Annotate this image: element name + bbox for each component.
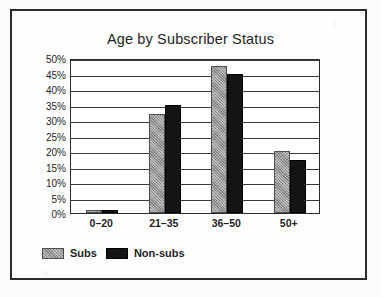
bar-subs bbox=[86, 210, 102, 213]
x-axis-tick-label: 50+ bbox=[280, 217, 298, 229]
legend-swatch-icon bbox=[106, 248, 128, 259]
y-axis-tick-label: 20% bbox=[32, 147, 66, 158]
bar-subs bbox=[149, 114, 165, 213]
legend-label: Subs bbox=[70, 247, 97, 259]
y-axis-tick-label: 25% bbox=[32, 131, 66, 142]
y-axis-tick-label: 35% bbox=[32, 100, 66, 111]
plot-area bbox=[70, 59, 320, 214]
legend-item: Subs bbox=[42, 247, 97, 259]
x-axis-tick-labels: 0–2021–3536–5050+ bbox=[70, 217, 320, 233]
bar-series-container bbox=[71, 60, 319, 213]
bar-nonsubs bbox=[227, 74, 243, 214]
y-axis-tick-label: 0% bbox=[32, 209, 66, 220]
y-axis-tick-label: 50% bbox=[32, 54, 66, 65]
bar-subs bbox=[211, 66, 227, 213]
y-axis-tick-label: 5% bbox=[32, 193, 66, 204]
x-axis-tick-label: 21–35 bbox=[149, 217, 178, 229]
bar-nonsubs bbox=[165, 105, 181, 214]
x-axis-tick-label: 0–20 bbox=[90, 217, 113, 229]
chart-frame: Age by Subscriber Status 50%45%40%35%30%… bbox=[10, 9, 367, 280]
chart-page: Age by Subscriber Status 50%45%40%35%30%… bbox=[0, 0, 381, 297]
y-axis-tick-labels: 50%45%40%35%30%25%20%15%10%5%0% bbox=[28, 59, 66, 214]
bar-nonsubs bbox=[102, 210, 118, 213]
y-axis-tick-label: 10% bbox=[32, 178, 66, 189]
y-axis-tick-label: 40% bbox=[32, 85, 66, 96]
x-axis-tick-label: 36–50 bbox=[212, 217, 241, 229]
y-axis-tick-label: 45% bbox=[32, 69, 66, 80]
bar-nonsubs bbox=[290, 160, 306, 213]
chart-legend: SubsNon-subs bbox=[42, 247, 185, 259]
chart-title: Age by Subscriber Status bbox=[12, 31, 369, 47]
legend-swatch-icon bbox=[42, 248, 64, 259]
bar-subs bbox=[274, 151, 290, 213]
y-axis-tick-label: 15% bbox=[32, 162, 66, 173]
legend-label: Non-subs bbox=[134, 247, 185, 259]
legend-item: Non-subs bbox=[106, 247, 185, 259]
y-axis-tick-label: 30% bbox=[32, 116, 66, 127]
